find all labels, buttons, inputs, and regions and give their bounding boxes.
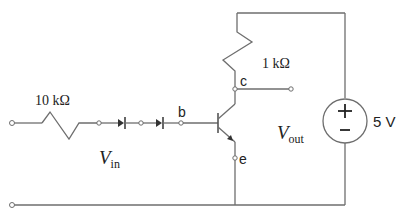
- resistor-10k: [42, 112, 99, 139]
- supply-label: 5 V: [373, 113, 396, 130]
- npn-transistor: [218, 91, 235, 156]
- diode-chain: [101, 117, 218, 129]
- collector-node: [233, 87, 237, 91]
- input-branch: [10, 112, 102, 139]
- collector-label: c: [240, 73, 247, 89]
- voltage-source: [323, 99, 367, 143]
- node-after-resistor: [97, 121, 101, 125]
- vout-label: Vout: [277, 122, 305, 146]
- node-between-diodes: [139, 121, 143, 125]
- resistor-1k: [223, 13, 252, 87]
- output-terminal: [289, 87, 293, 91]
- input-terminal-top: [10, 121, 15, 126]
- circuit-diagram: 10 kΩ 1 kΩ b c e 5 V Vin Vout: [0, 0, 401, 217]
- diode-1: [118, 117, 125, 129]
- emitter-node: [233, 156, 237, 160]
- input-terminal-bottom: [10, 203, 15, 208]
- emitter-label: e: [239, 151, 247, 167]
- diode-2: [156, 117, 163, 129]
- input-resistor-label: 10 kΩ: [35, 93, 70, 108]
- collector-resistor-label: 1 kΩ: [262, 56, 290, 71]
- base-node: [179, 121, 183, 125]
- base-label: b: [178, 104, 186, 120]
- vin-label: Vin: [99, 147, 120, 171]
